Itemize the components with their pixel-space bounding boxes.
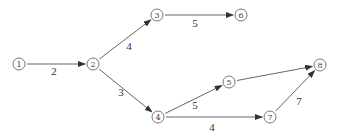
edge-weight-label: 4 — [209, 121, 215, 133]
diagram-svg: 2435547 12345678 — [0, 0, 338, 140]
edge-2-to-4 — [99, 69, 152, 112]
edge-weight-label: 2 — [51, 65, 57, 77]
edge-weight-label: 3 — [118, 86, 124, 98]
edge-7-to-8 — [276, 71, 315, 111]
node-label: 6 — [238, 11, 243, 20]
node-7: 7 — [264, 111, 276, 123]
node-8: 8 — [314, 59, 326, 71]
edge-5-to-8 — [237, 66, 312, 80]
node-label: 1 — [16, 60, 21, 69]
node-label: 3 — [154, 11, 159, 20]
node-label: 2 — [90, 60, 95, 69]
node-label: 8 — [317, 61, 322, 70]
nodes-group: 12345678 — [13, 9, 326, 123]
edge-weight-label: 5 — [192, 99, 198, 111]
edge-weight-label: 5 — [192, 17, 198, 29]
node-label: 5 — [226, 78, 231, 87]
node-3: 3 — [151, 9, 163, 21]
network-diagram: 2435547 12345678 — [0, 0, 338, 140]
node-5: 5 — [223, 76, 235, 88]
edge-weight-label: 7 — [296, 95, 302, 107]
node-4: 4 — [152, 111, 164, 123]
node-label: 4 — [155, 113, 160, 122]
edge-weight-label: 4 — [126, 40, 132, 52]
edge-2-to-3 — [99, 20, 150, 59]
node-2: 2 — [87, 58, 99, 70]
node-6: 6 — [235, 9, 247, 21]
node-label: 7 — [267, 113, 272, 122]
node-1: 1 — [13, 58, 25, 70]
